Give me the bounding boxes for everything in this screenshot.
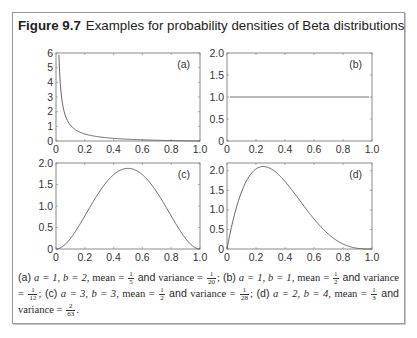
- x-tick-label: 0.4: [106, 251, 121, 263]
- x-tick-label: 0.8: [164, 143, 179, 155]
- y-tick-label: 4: [47, 76, 53, 88]
- x-tick-label: 0: [53, 251, 59, 263]
- caption-mean-word: mean =: [297, 272, 329, 283]
- frac-den: 63: [66, 311, 75, 318]
- fraction-d-mean: 13: [371, 287, 377, 302]
- caption-mean-word: mean =: [334, 288, 366, 299]
- frac-den: 20: [207, 279, 216, 286]
- chart-panel-c: 00.20.40.60.81.000.51.01.52.0(c): [38, 157, 207, 264]
- x-tick-label: 1.0: [193, 143, 208, 155]
- y-tick-label: 2.0: [38, 157, 53, 169]
- y-tick-label: 5: [47, 61, 53, 73]
- fraction-a-var: 120: [207, 271, 216, 286]
- caption-a-params: a = 1, b = 2,: [34, 272, 90, 283]
- x-tick-label: 0.6: [135, 251, 150, 263]
- y-tick-label: 1.5: [209, 69, 224, 81]
- y-tick-label: 1.5: [38, 178, 53, 190]
- panel-label: (d): [349, 168, 362, 180]
- fraction-d-var: 263: [66, 303, 75, 318]
- caption-c-label: (c): [45, 287, 57, 299]
- y-tick-label: 1.0: [209, 91, 224, 103]
- y-tick-label: 1.0: [38, 200, 53, 212]
- caption-c-params: a = 3, b = 3,: [61, 288, 119, 299]
- caption-variance-word: variance =: [18, 304, 63, 315]
- caption-d-params: a = 2, b = 4,: [273, 288, 331, 299]
- x-tick-label: 0.8: [164, 251, 179, 263]
- fraction-b-mean: 12: [333, 271, 339, 286]
- x-tick-label: 0.6: [135, 143, 150, 155]
- frac-den: 2: [333, 279, 339, 286]
- frac-den: 12: [28, 295, 37, 302]
- y-tick-label: 0: [218, 243, 224, 255]
- panel-label: (c): [178, 168, 190, 180]
- chart-panel-d: 00.20.40.60.81.000.51.01.52.0(d): [209, 163, 379, 263]
- panel-label: (b): [349, 58, 362, 70]
- fraction-c-var: 128: [240, 287, 249, 302]
- x-tick-label: 0.6: [307, 251, 322, 263]
- caption-d-label: (d): [256, 287, 269, 299]
- frac-den: 3: [371, 295, 377, 302]
- caption-variance-word: variance =: [190, 288, 235, 299]
- x-tick-label: 0: [224, 143, 230, 155]
- y-tick-label: 0: [47, 135, 53, 147]
- x-tick-label: 0: [224, 251, 230, 263]
- y-tick-label: 2.0: [209, 47, 224, 59]
- y-tick-label: 3: [47, 91, 53, 103]
- y-tick-label: 6: [47, 47, 53, 59]
- frac-den: 28: [240, 295, 249, 302]
- x-tick-label: 1.0: [365, 143, 380, 155]
- caption-b-label: (b): [223, 271, 236, 283]
- y-tick-label: 0.5: [209, 113, 224, 125]
- x-tick-label: 1.0: [193, 251, 208, 263]
- y-tick-label: 2.0: [209, 164, 224, 176]
- caption-a-label: (a): [18, 271, 31, 283]
- y-tick-label: 0.5: [38, 221, 53, 233]
- x-tick-label: 0.4: [278, 143, 293, 155]
- caption-and-word: and: [381, 287, 399, 299]
- x-tick-label: 0.8: [336, 251, 351, 263]
- x-tick-label: 0: [53, 143, 59, 155]
- x-tick-label: 0.2: [249, 143, 264, 155]
- x-tick-label: 0.8: [336, 143, 351, 155]
- x-tick-label: 1.0: [365, 251, 380, 263]
- density-curve: [56, 168, 200, 249]
- y-tick-label: 1.0: [209, 203, 224, 215]
- panel-label: (a): [177, 58, 190, 70]
- fraction-a-mean: 15: [128, 271, 134, 286]
- fraction-b-var: 112: [28, 287, 37, 302]
- frac-den: 2: [159, 295, 165, 302]
- y-tick-label: 1.5: [209, 184, 224, 196]
- figure-caption: (a) a = 1, b = 2, mean = 15 and variance…: [18, 270, 399, 318]
- caption-b-params: a = 1, b = 1,: [239, 272, 295, 283]
- fraction-c-mean: 12: [159, 287, 165, 302]
- caption-and-word: and: [343, 271, 361, 283]
- caption-and-word: and: [169, 287, 187, 299]
- chart-panel-b: 00.20.40.60.81.000.51.01.52.0(b): [209, 47, 379, 156]
- x-tick-label: 0.4: [106, 143, 121, 155]
- caption-and-word: and: [138, 271, 156, 283]
- caption-mean-word: mean =: [92, 272, 124, 283]
- y-tick-label: 2: [47, 105, 53, 117]
- y-tick-label: 1: [47, 120, 53, 132]
- y-tick-label: 0: [218, 135, 224, 147]
- chart-panel-a: 00.20.40.60.81.00123456(a): [47, 47, 207, 156]
- y-tick-label: 0: [47, 243, 53, 255]
- x-tick-label: 0.2: [249, 251, 264, 263]
- caption-mean-word: mean =: [122, 288, 154, 299]
- y-tick-label: 0.5: [209, 223, 224, 235]
- x-tick-label: 0.2: [77, 251, 92, 263]
- x-tick-label: 0.2: [77, 143, 92, 155]
- x-tick-label: 0.4: [278, 251, 293, 263]
- caption-variance-word: variance =: [158, 272, 203, 283]
- x-tick-label: 0.6: [307, 143, 322, 155]
- frac-den: 5: [128, 279, 134, 286]
